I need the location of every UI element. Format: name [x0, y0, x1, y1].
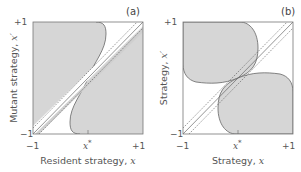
coexistence-region-upper-left — [183, 22, 258, 83]
x-axis-label-b: Strategy, x — [212, 155, 265, 166]
y-axis-label-a: Mutant strategy, x′ — [8, 32, 19, 123]
x-star-label-b: x* — [233, 139, 242, 151]
panel-label-b: (b) — [281, 6, 295, 17]
y-tick-top-b: +1 — [164, 17, 177, 27]
x-tick-left-a: −1 — [26, 141, 39, 151]
y-tick-bottom-b: −1 — [170, 129, 183, 139]
x-tick-right-a: +1 — [132, 141, 145, 151]
panel-label-a: (a) — [126, 6, 140, 17]
x-axis-label-a: Resident strategy, x — [40, 155, 136, 166]
panel-b: (b) +1 −1 −1 +1 x* Strategy, x Strategy,… — [158, 6, 295, 166]
y-tick-top-a: +1 — [14, 17, 27, 27]
x-tick-right-b: +1 — [282, 141, 295, 151]
coexistence-region-lower-right — [218, 73, 293, 134]
figure: (a) +1 −1 −1 +1 x* Resident strategy, x … — [0, 0, 301, 172]
x-star-label-a: x* — [83, 139, 92, 151]
y-tick-bottom-a: −1 — [20, 129, 33, 139]
x-tick-left-b: −1 — [176, 141, 189, 151]
y-axis-label-b: Strategy, x′ — [158, 50, 169, 105]
panel-a: (a) +1 −1 −1 +1 x* Resident strategy, x … — [8, 6, 145, 166]
